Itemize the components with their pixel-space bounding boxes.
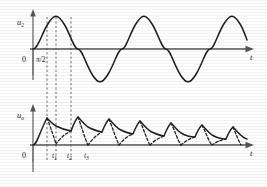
figure-container: u2 t 0 π/2 <box>0 0 267 187</box>
dashed-fall-3 <box>109 119 119 145</box>
bottom-origin-label: 0 <box>22 151 26 160</box>
waveform-diagram: u2 t 0 π/2 <box>0 0 267 187</box>
dashed-fall-5 <box>171 123 181 145</box>
dashed-rise-2 <box>88 132 102 145</box>
top-x-axis-label: t <box>250 52 253 62</box>
dashed-fall-7 <box>233 127 241 145</box>
dashed-fall-2 <box>78 117 88 145</box>
panel-bottom: uo t 0 t1 t2 t3 <box>17 104 254 172</box>
tick-label-t1: t1 <box>52 151 57 161</box>
dashed-rise-4 <box>150 136 164 145</box>
dashed-rise-3 <box>119 134 133 145</box>
top-origin-label: 0 <box>22 55 26 64</box>
dashed-rise-1 <box>56 131 71 144</box>
bottom-y-axis-label: uo <box>17 110 24 121</box>
top-y-axis-arrowhead <box>30 9 36 17</box>
tick-label-t3: t3 <box>84 151 89 161</box>
panel-top: u2 t 0 π/2 <box>17 9 254 82</box>
dashed-rise-6 <box>212 139 226 145</box>
dashed-fall-6 <box>202 125 212 145</box>
bottom-y-axis-arrowhead <box>30 104 36 112</box>
dashed-rise-5 <box>181 137 195 145</box>
dashed-rectified-segments <box>47 117 241 145</box>
pi-over-two-label: π/2 <box>36 55 46 64</box>
dashed-fall-4 <box>140 121 150 145</box>
bottom-x-axis-label: t <box>250 148 253 158</box>
top-y-axis-label: u2 <box>17 17 24 28</box>
tick-label-t2: t2 <box>67 151 72 161</box>
